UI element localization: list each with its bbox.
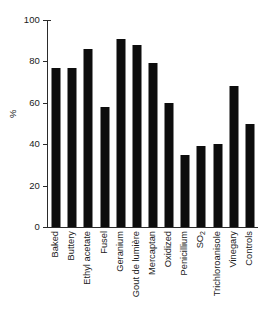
x-axis-tick-label: Vinegary (229, 231, 239, 268)
x-axis-line (47, 227, 258, 228)
x-axis-label-slot: Mercaptan (145, 229, 161, 321)
bar (68, 68, 77, 227)
bar-slot (226, 20, 242, 227)
x-axis-tick-label: Buttery (67, 231, 77, 260)
bar (245, 124, 254, 228)
bar-slot (210, 20, 226, 227)
x-axis-tick-label: Penicillium (181, 231, 191, 275)
bar (148, 63, 157, 227)
bar (213, 144, 222, 227)
bar (84, 49, 93, 227)
x-axis-tick-label: Baked (51, 231, 61, 257)
y-axis-tick-label-wrap: 100 (0, 20, 48, 21)
bar-slot (193, 20, 209, 227)
x-axis-label-slot: Geranium (113, 229, 129, 321)
x-axis-label-slot: Oxidized (161, 229, 177, 321)
bar-slot (145, 20, 161, 227)
bar-slot (161, 20, 177, 227)
x-axis-label-slot: Controls (242, 229, 258, 321)
x-axis-label-slot: Buttery (64, 229, 80, 321)
bar (229, 86, 238, 227)
x-axis-label-slot: SO2 (193, 229, 209, 321)
x-axis-label-slot: Trichloroanisole (210, 229, 226, 321)
y-axis-tick-label: 0 (14, 222, 40, 232)
y-axis-tick-label: 100 (14, 15, 40, 25)
x-axis-label-slot: Gout de lumière (129, 229, 145, 321)
bar-slot (64, 20, 80, 227)
y-axis-title: % (8, 110, 18, 118)
x-axis-tick-label: Trichloroanisole (213, 231, 223, 296)
x-axis-label-slot: Vinegary (226, 229, 242, 321)
y-axis-tick-label: 20 (14, 181, 40, 191)
x-axis-tick-label: SO2 (197, 231, 207, 248)
x-axis-label-slot: Ethyl acetate (80, 229, 96, 321)
bar (181, 155, 190, 227)
bar-chart-figure: 020406080100 % BakedButteryEthyl acetate… (0, 0, 267, 321)
bar (165, 103, 174, 227)
bar-slot (96, 20, 112, 227)
y-axis-tick-label: 60 (14, 98, 40, 108)
x-axis-tick-labels: BakedButteryEthyl acetateFuselGeraniumGo… (48, 229, 258, 321)
bar-slot (80, 20, 96, 227)
x-axis-tick-label: Ethyl acetate (84, 231, 94, 285)
y-axis-tick-label: 40 (14, 139, 40, 149)
bar-slot (48, 20, 64, 227)
y-axis-tick-label-wrap: 20 (0, 186, 48, 187)
x-axis-label-slot: Baked (48, 229, 64, 321)
y-axis-tick-label-wrap: 40 (0, 144, 48, 145)
y-axis-tick-label: 80 (14, 56, 40, 66)
x-axis-tick-label: Controls (245, 231, 255, 266)
y-axis-tick-label-wrap: 80 (0, 61, 48, 62)
bar (100, 107, 109, 227)
bar (52, 68, 61, 227)
bar-slot (129, 20, 145, 227)
bar-slot (242, 20, 258, 227)
x-axis-tick-label: Mercaptan (148, 231, 158, 275)
x-axis-label-slot: Penicillium (177, 229, 193, 321)
bar (132, 45, 141, 227)
y-axis-tick-label-wrap: 0 (0, 227, 48, 228)
x-axis-tick-label: Gout de lumière (132, 231, 142, 297)
plot-area (48, 20, 258, 227)
bar (197, 146, 206, 227)
x-axis-label-slot: Fusel (96, 229, 112, 321)
bar (116, 39, 125, 227)
y-axis-tick-label-wrap: 60 (0, 103, 48, 104)
bar-slot (177, 20, 193, 227)
x-axis-tick-label: Fusel (100, 231, 110, 254)
x-axis-tick-label: Oxidized (164, 231, 174, 267)
x-axis-tick-label: Geranium (116, 231, 126, 272)
bar-slot (113, 20, 129, 227)
